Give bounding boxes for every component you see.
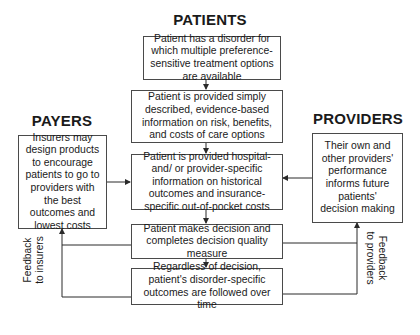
flow-step-provider-info: Patient is provided hospital- and/ or pr… [131,154,283,210]
feedback-to-insurers-label: Feedback to insurers [22,222,45,298]
heading-providers: PROVIDERS [306,110,410,127]
flow-step-outcomes-followed: Regardless of decision, patient's disord… [131,268,283,305]
flow-step-decision: Patient makes decision and completes dec… [131,224,283,259]
flow-step-evidence-info: Patient is provided simply described, ev… [131,90,283,143]
feedback-insurers-line1: Feedback [22,222,34,298]
feedback-providers-line2: to providers [365,218,377,298]
feedback-insurers-line2: to insurers [33,222,45,298]
providers-box: Their own and other providers' performan… [312,133,403,223]
payers-box: Insurers may design products to encourag… [18,135,107,229]
heading-patients: PATIENTS [150,11,270,28]
feedback-providers-line1: Feedback [376,218,388,298]
heading-payers: PAYERS [14,112,110,129]
flow-step-disorder: Patient has a disorder for which multipl… [143,36,281,80]
feedback-to-providers-label: Feedback to providers [365,218,388,298]
